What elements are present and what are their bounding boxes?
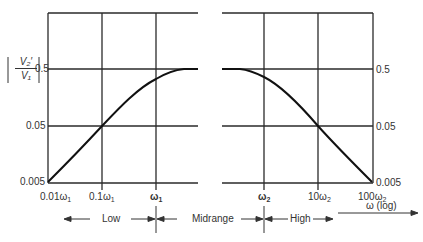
left-ytick-0.005: 0.005 xyxy=(20,177,45,187)
left-xtick-w1: ω1 xyxy=(150,192,162,203)
left-xtick-0.1w1: 0.1ω1 xyxy=(89,192,115,203)
left-xtick-0.01w1: 0.01ω1 xyxy=(40,192,71,203)
left-ytick-0.5: 0.5 xyxy=(35,64,49,74)
region-midrange-label: Midrange xyxy=(192,214,234,224)
bode-diagram xyxy=(0,0,423,242)
right-xtick-10w2: 10ω2 xyxy=(308,192,331,203)
right-xtick-w2: ω2 xyxy=(258,192,270,203)
left-ytick-0.05: 0.05 xyxy=(26,121,45,131)
region-low-label: Low xyxy=(102,214,120,224)
y-label-denominator: V₁ xyxy=(15,69,37,81)
right-ytick-0.5: 0.5 xyxy=(376,65,390,75)
region-high-label: High xyxy=(290,214,311,224)
right-ytick-0.005: 0.005 xyxy=(376,178,401,188)
y-label-numerator: V₂′ xyxy=(15,56,37,69)
right-ytick-0.05: 0.05 xyxy=(376,122,395,132)
low-arrow-head xyxy=(64,217,71,222)
x-axis-label: ω (log) xyxy=(366,201,397,211)
